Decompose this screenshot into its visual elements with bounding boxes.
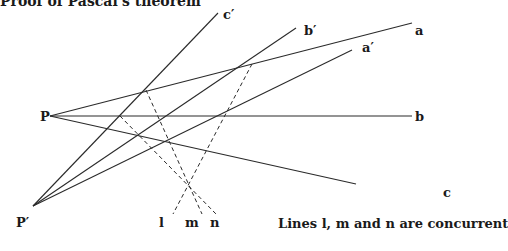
line-Pc — [50, 116, 356, 184]
point-label-P: P — [40, 110, 50, 123]
line-l — [173, 64, 252, 214]
line-P'a' — [33, 50, 352, 206]
point-label-P-prime: P′ — [16, 216, 29, 229]
line-n — [120, 116, 216, 214]
label-a: a — [415, 24, 423, 37]
label-l: l — [159, 216, 164, 229]
label-c: c — [443, 186, 451, 199]
label-b: b — [415, 110, 424, 123]
caption: Lines l, m and n are concurrent — [278, 216, 508, 231]
label-m: m — [185, 216, 199, 229]
label-a-prime: a′ — [362, 41, 374, 54]
label-n: n — [210, 216, 219, 229]
line-P'b' — [33, 28, 296, 206]
label-b-prime: b′ — [304, 24, 317, 37]
line-m — [146, 90, 202, 214]
label-c-prime: c′ — [223, 8, 234, 21]
line-Pa — [50, 23, 412, 116]
line-P'c' — [33, 13, 218, 206]
